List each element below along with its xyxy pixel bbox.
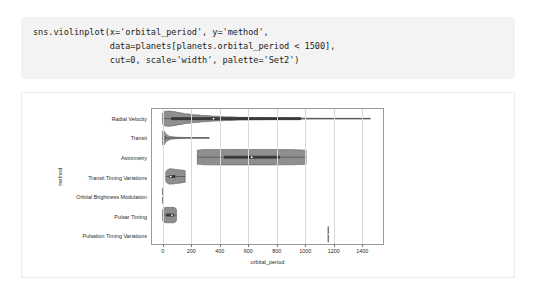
x-tick-mark: [362, 244, 363, 247]
page-root: sns.violinplot(x='orbital_period', y='me…: [0, 0, 537, 290]
x-gridline: [305, 109, 306, 244]
y-tick-label: Pulsar Timing: [114, 214, 147, 220]
x-tick-label: 1400: [356, 248, 368, 254]
y-tick-label: Orbital Brightness Modulation: [76, 194, 147, 200]
code-line-2: data=planets[planets.orbital_period < 15…: [33, 39, 515, 53]
x-tick-mark: [220, 244, 221, 247]
x-tick-mark: [277, 244, 278, 247]
violin-median-marker: [171, 214, 173, 216]
x-tick-mark: [191, 244, 192, 247]
y-axis-label: method: [57, 167, 63, 186]
y-tick-label: Radial Velocity: [112, 116, 147, 122]
x-tick-mark: [305, 244, 306, 247]
y-tick-label: Pulsation Timing Variations: [82, 233, 147, 239]
x-tick-label: 800: [272, 248, 281, 254]
x-axis-label: orbital_period: [251, 259, 285, 265]
x-gridline: [191, 109, 192, 244]
code-line-1: sns.violinplot(x='orbital_period', y='me…: [33, 25, 515, 39]
x-gridline: [334, 109, 335, 244]
violin-plot-svg: [152, 109, 383, 244]
violin-median-marker: [327, 233, 329, 235]
code-line-3: cut=0, scale='width', palette='Set2'): [33, 53, 515, 67]
x-tick-mark: [334, 244, 335, 247]
violin-median-marker: [213, 118, 215, 120]
violin-median-marker: [170, 176, 172, 178]
x-tick-label: 1000: [299, 248, 311, 254]
violin-median-marker: [251, 156, 253, 158]
y-tick-label: Transit Timing Variations: [88, 175, 147, 181]
code-cell[interactable]: sns.violinplot(x='orbital_period', y='me…: [21, 17, 515, 79]
x-tick-label: 200: [187, 248, 196, 254]
chart-figure: 0200400600800100012001400Radial Velocity…: [21, 92, 515, 278]
x-gridline: [163, 109, 164, 244]
x-gridline: [220, 109, 221, 244]
x-tick-mark: [163, 244, 164, 247]
x-gridline: [248, 109, 249, 244]
y-tick-label: Transit: [131, 135, 147, 141]
y-tick-label: Astrometry: [121, 155, 147, 161]
x-tick-label: 0: [161, 248, 164, 254]
x-tick-label: 400: [215, 248, 224, 254]
x-tick-label: 1200: [328, 248, 340, 254]
x-gridline: [362, 109, 363, 244]
x-tick-label: 600: [244, 248, 253, 254]
x-gridline: [277, 109, 278, 244]
plot-area: 0200400600800100012001400Radial Velocity…: [151, 108, 384, 245]
x-tick-mark: [248, 244, 249, 247]
